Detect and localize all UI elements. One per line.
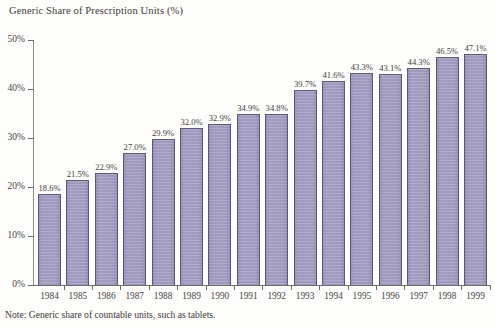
bar[interactable]: 44.3% xyxy=(407,68,430,285)
bar[interactable]: 29.9% xyxy=(152,139,175,286)
bar-value-label: 43.1% xyxy=(379,63,401,73)
y-axis-tick-label: 50% xyxy=(8,34,25,45)
bar-value-label: 34.9% xyxy=(237,103,259,113)
bar-value-label: 32.9% xyxy=(209,113,231,123)
page-title: Generic Share of Prescription Units (%) xyxy=(9,5,183,16)
x-axis-label: 1991 xyxy=(234,290,262,302)
bar[interactable]: 22.9% xyxy=(95,173,118,285)
bar[interactable]: 18.6% xyxy=(38,194,61,285)
bar-value-label: 39.7% xyxy=(294,79,316,89)
x-axis-label: 1995 xyxy=(348,290,376,302)
x-axis-label: 1997 xyxy=(405,290,433,302)
bar-value-label: 47.1% xyxy=(464,43,486,53)
footnote: Note: Generic share of countable units, … xyxy=(5,309,215,320)
bar[interactable]: 32.0% xyxy=(180,128,203,285)
x-axis-label: 1992 xyxy=(263,290,291,302)
y-axis-tick: 30% xyxy=(28,138,34,139)
bar[interactable]: 39.7% xyxy=(294,90,317,285)
y-axis-tick-label: 10% xyxy=(8,230,25,241)
bar[interactable]: 43.3% xyxy=(350,73,373,285)
y-axis-line xyxy=(33,40,34,286)
bar[interactable]: 34.8% xyxy=(265,114,288,285)
x-axis-label: 1999 xyxy=(462,290,490,302)
bar-value-label: 43.3% xyxy=(351,62,373,72)
y-axis-tick: 20% xyxy=(28,187,34,188)
bar[interactable]: 27.0% xyxy=(123,153,146,285)
bar[interactable]: 32.9% xyxy=(208,124,231,285)
x-axis-label: 1985 xyxy=(64,290,92,302)
plot-area: 0%10%20%30%40%50% 18.6%21.5%22.9%27.0%29… xyxy=(33,40,491,286)
x-axis-label: 1993 xyxy=(291,290,319,302)
y-axis-tick: 40% xyxy=(28,89,34,90)
bar-value-label: 18.6% xyxy=(38,183,60,193)
bar-value-label: 46.5% xyxy=(436,46,458,56)
y-axis-tick-label: 0% xyxy=(12,279,25,290)
x-axis-tick xyxy=(490,285,491,290)
bar[interactable]: 21.5% xyxy=(66,180,89,285)
bar[interactable]: 46.5% xyxy=(436,57,459,285)
x-axis-label: 1984 xyxy=(36,290,64,302)
bar-value-label: 32.0% xyxy=(180,117,202,127)
y-axis-tick: 0% xyxy=(28,285,34,286)
x-axis-label: 1988 xyxy=(149,290,177,302)
y-axis-tick: 10% xyxy=(28,236,34,237)
bar[interactable]: 41.6% xyxy=(322,81,345,285)
bar[interactable]: 34.9% xyxy=(237,114,260,285)
bar-value-label: 27.0% xyxy=(124,142,146,152)
x-axis-label: 1987 xyxy=(121,290,149,302)
bar-value-label: 41.6% xyxy=(322,70,344,80)
x-axis-label: 1996 xyxy=(376,290,404,302)
bar-value-label: 21.5% xyxy=(67,169,89,179)
y-axis-tick-label: 30% xyxy=(8,132,25,143)
x-axis-label: 1989 xyxy=(178,290,206,302)
bar-value-label: 34.8% xyxy=(266,103,288,113)
bar-value-label: 22.9% xyxy=(95,162,117,172)
bar[interactable]: 47.1% xyxy=(464,54,487,285)
x-axis-label: 1990 xyxy=(206,290,234,302)
y-axis-tick-label: 20% xyxy=(8,181,25,192)
x-axis-label: 1986 xyxy=(92,290,120,302)
y-axis-tick-label: 40% xyxy=(8,83,25,94)
bar-value-label: 29.9% xyxy=(152,128,174,138)
x-axis-label: 1994 xyxy=(320,290,348,302)
x-axis-label: 1998 xyxy=(433,290,461,302)
chart-page: Generic Share of Prescription Units (%) … xyxy=(0,0,495,327)
y-axis-tick: 50% xyxy=(28,40,34,41)
bar-value-label: 44.3% xyxy=(408,57,430,67)
bar[interactable]: 43.1% xyxy=(379,74,402,285)
